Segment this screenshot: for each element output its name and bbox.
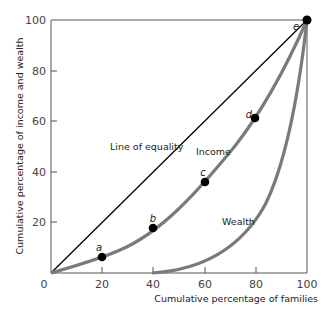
x-tick-label: 60 — [198, 278, 212, 291]
point-c — [201, 178, 210, 187]
x-axis-title: Cumulative percentage of families — [154, 293, 318, 304]
y-ticks — [51, 71, 57, 222]
point-label-a: a — [96, 242, 102, 253]
x-tick-label: 0 — [41, 278, 48, 291]
point-label-d: d — [246, 109, 253, 120]
point-label-e: e — [293, 21, 299, 32]
point-label-c: c — [200, 167, 206, 178]
y-axis-title: Cumulative percentage of income and weal… — [14, 37, 25, 254]
point-a — [98, 253, 107, 262]
line-of-equality-label: Line of equality — [110, 141, 184, 152]
y-tick-label: 80 — [32, 65, 46, 78]
income-label: Income — [196, 146, 231, 157]
x-tick-label: 20 — [95, 278, 109, 291]
point-b — [149, 224, 158, 233]
wealth-label: Wealth — [222, 216, 255, 227]
x-tick-label: 40 — [146, 278, 160, 291]
x-tick-label: 80 — [249, 278, 263, 291]
y-tick-label: 60 — [32, 115, 46, 128]
y-tick-label: 100 — [25, 14, 46, 27]
lorenz-chart: 20 40 60 80 100 0 20 40 60 80 100 Cumula… — [0, 0, 331, 314]
point-e — [303, 16, 312, 25]
x-tick-label: 100 — [297, 278, 318, 291]
point-label-b: b — [150, 213, 156, 224]
y-tick-label: 20 — [32, 216, 46, 229]
y-tick-label: 40 — [32, 166, 46, 179]
